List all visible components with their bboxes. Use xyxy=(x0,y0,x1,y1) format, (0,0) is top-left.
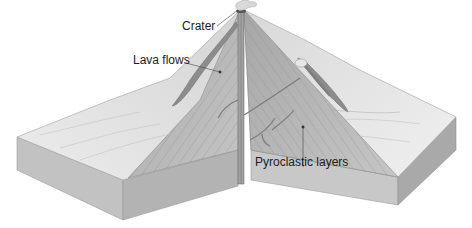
crater-label: Crater xyxy=(182,19,215,33)
pyroclastic-layers-label: Pyroclastic layers xyxy=(255,155,348,169)
central-conduit xyxy=(238,12,244,184)
lava-flows-label: Lava flows xyxy=(133,53,190,67)
flank-vent xyxy=(295,59,307,67)
eruption-plume-icon xyxy=(236,0,257,10)
volcano-block-diagram xyxy=(0,0,472,228)
